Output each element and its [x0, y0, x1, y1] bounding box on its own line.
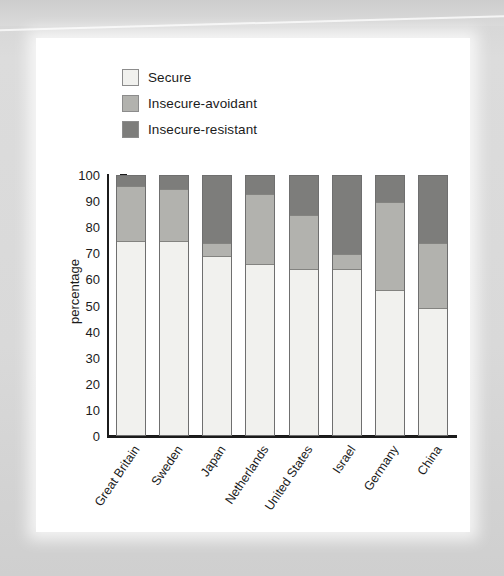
bar-slot	[152, 175, 195, 436]
stacked-bar[interactable]	[159, 175, 189, 436]
y-tick-label-100: 100	[54, 168, 100, 182]
x-axis-label-japan: Japan	[198, 443, 229, 479]
bar-segment-insecure-avoidant	[246, 194, 274, 264]
bar-segment-insecure-avoidant	[117, 186, 145, 240]
bar-slot	[369, 175, 412, 436]
y-tick-label-40: 40	[54, 325, 100, 339]
x-axis-label-china: China	[415, 443, 445, 478]
y-axis-ticks: 1009080706050403020100	[54, 175, 100, 436]
bar-segment-insecure-avoidant	[376, 202, 404, 290]
bar-segment-secure	[160, 241, 188, 435]
y-tick-label-80: 80	[54, 220, 100, 234]
bar-segment-insecure-avoidant	[333, 254, 361, 270]
bar-segment-insecure-avoidant	[160, 189, 188, 241]
x-axis-label-sweden: Sweden	[149, 443, 186, 488]
y-tick-label-70: 70	[54, 246, 100, 260]
bar-segment-insecure-resistant	[117, 176, 145, 186]
y-tick-label-0: 0	[54, 429, 100, 443]
y-tick-label-10: 10	[54, 403, 100, 417]
bar-segment-secure	[246, 264, 274, 435]
stacked-bar[interactable]	[202, 175, 232, 436]
y-tick-label-90: 90	[54, 194, 100, 208]
bar-group	[109, 175, 455, 436]
bar-slot	[325, 175, 368, 436]
bar-segment-insecure-resistant	[160, 176, 188, 189]
bar-slot	[109, 175, 152, 436]
bar-segment-insecure-avoidant	[419, 243, 447, 308]
x-label-slot: China	[412, 439, 455, 531]
bar-segment-insecure-resistant	[290, 176, 318, 215]
x-label-slot: Sweden	[152, 439, 195, 531]
bar-segment-insecure-resistant	[203, 176, 231, 243]
bar-segment-insecure-avoidant	[203, 243, 231, 256]
bar-segment-insecure-resistant	[246, 176, 274, 194]
x-label-slot: Germany	[369, 439, 412, 531]
bar-segment-insecure-avoidant	[290, 215, 318, 269]
stacked-bar[interactable]	[375, 175, 405, 436]
bar-segment-insecure-resistant	[419, 176, 447, 243]
stacked-bar[interactable]	[245, 175, 275, 436]
y-tick-label-60: 60	[54, 272, 100, 286]
bar-segment-secure	[376, 290, 404, 435]
bar-segment-insecure-resistant	[333, 176, 361, 254]
x-label-slot: United States	[282, 439, 325, 531]
x-axis-label-israel: Israel	[330, 443, 359, 476]
plot-area: percentage 1009080706050403020100 Great …	[36, 38, 470, 532]
bar-segment-secure	[290, 269, 318, 435]
figure-panel: SecureInsecure-avoidantInsecure-resistan…	[36, 38, 470, 532]
bar-segment-secure	[419, 308, 447, 435]
x-label-slot: Great Britain	[109, 439, 152, 531]
y-tick-label-30: 30	[54, 351, 100, 365]
bar-slot	[196, 175, 239, 436]
y-tick-label-50: 50	[54, 299, 100, 313]
bar-slot	[282, 175, 325, 436]
x-axis-label-great-britain: Great Britain	[91, 443, 142, 509]
bar-slot	[239, 175, 282, 436]
y-tick-label-20: 20	[54, 377, 100, 391]
stacked-bar[interactable]	[116, 175, 146, 436]
bar-segment-secure	[117, 241, 145, 435]
x-axis-labels: Great BritainSwedenJapanNetherlandsUnite…	[109, 439, 455, 531]
bar-segment-secure	[333, 269, 361, 435]
bar-segment-insecure-resistant	[376, 176, 404, 202]
stacked-bar[interactable]	[418, 175, 448, 436]
stacked-bar[interactable]	[332, 175, 362, 436]
stacked-bar[interactable]	[289, 175, 319, 436]
bar-segment-secure	[203, 256, 231, 435]
bar-slot	[412, 175, 455, 436]
